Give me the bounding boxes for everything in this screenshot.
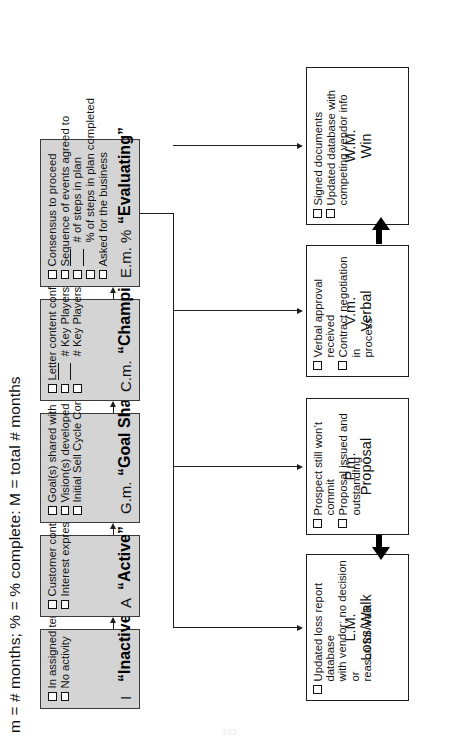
stage-box-active[interactable]: Customer contact made Interest expressed… <box>40 535 140 617</box>
checklist-item[interactable]: Signed documents <box>312 90 324 218</box>
outcome-checklist-proposal: Prospect still won’t commit Proposal iss… <box>312 399 362 528</box>
empty-checkbox-icon[interactable] <box>326 210 335 219</box>
empty-checkbox-icon[interactable] <box>61 693 70 702</box>
fill-in-blank-line <box>83 250 84 267</box>
checklist-item-label: Updated loss report database with vendor… <box>312 555 373 682</box>
fill-in-blank-line <box>70 250 71 267</box>
outcome-checklist-verbal: Verbal approval received Contract negoti… <box>312 246 374 370</box>
arrow-down-icon-proposal <box>297 464 303 470</box>
empty-checkbox-icon[interactable] <box>48 601 57 610</box>
checklist-item[interactable]: Proposal issued and outstanding <box>337 399 361 528</box>
stage-name: “Evaluating” <box>116 127 134 224</box>
checklist-item-label: Prospect still won’t commit <box>312 399 336 516</box>
empty-checkbox-icon[interactable] <box>61 601 70 610</box>
stage-checklist-evaluating: Consensus to proceed Sequence of events … <box>47 98 110 279</box>
connector-branch-bus <box>173 213 174 628</box>
stage-code: A <box>117 598 134 608</box>
outcome-box-loss-walk[interactable]: Updated loss report database with vendor… <box>306 554 409 701</box>
outcome-box-proposal[interactable]: Prospect still won’t commit Proposal iss… <box>306 398 409 535</box>
stage-code: G.m. <box>117 482 134 515</box>
checklist-item[interactable]: Verbal approval received <box>312 246 336 370</box>
checklist-item[interactable]: Updated database with competing vendor i… <box>325 90 349 218</box>
connector-champion-evaluating <box>113 293 114 299</box>
checklist-item[interactable]: Prospect still won’t commit <box>312 399 336 528</box>
checklist-item[interactable]: Updated loss report database with vendor… <box>312 555 373 694</box>
empty-checkbox-icon[interactable] <box>61 507 70 516</box>
stage-code: C.m. <box>117 360 134 392</box>
arrow-right-icon <box>110 287 116 293</box>
checklist-item-label: # of steps in plan <box>72 157 84 242</box>
stage-box-evaluating[interactable]: Consensus to proceed Sequence of events … <box>40 139 140 287</box>
outcome-checklist-loss-walk: Updated loss report database with vendor… <box>312 555 373 694</box>
checklist-item-label: No activity <box>60 636 72 688</box>
arrow-down-icon-verbal <box>297 308 303 314</box>
checklist-item-label: Consensus to proceed <box>47 153 59 266</box>
thick-arrow-right-icon <box>372 217 390 230</box>
page-number: 183 <box>0 727 459 737</box>
arrow-down-icon-loss-walk <box>297 625 303 631</box>
stage-box-goal-shared[interactable]: Goal(s) shared with seller Vision(s) dev… <box>40 413 140 523</box>
empty-checkbox-icon[interactable] <box>86 271 95 280</box>
empty-checkbox-icon[interactable] <box>61 385 70 394</box>
stage-name: “Active” <box>116 526 134 590</box>
empty-checkbox-icon[interactable] <box>48 507 57 516</box>
connector-drop-loss-walk <box>173 627 297 628</box>
stage-box-champion[interactable]: Letter content confirmed # Key Players r… <box>40 299 140 401</box>
empty-checkbox-icon[interactable] <box>73 385 82 394</box>
fill-in-blank-line <box>58 364 59 381</box>
connector-inactive-active <box>113 623 114 629</box>
checklist-item-label: % of steps in plan completed <box>85 98 97 242</box>
connector-evaluating-trunk <box>140 213 174 214</box>
connector-active-goal <box>113 529 114 535</box>
empty-checkbox-icon[interactable] <box>61 271 70 280</box>
checklist-item-label: Asked for the business <box>98 152 110 266</box>
outcome-box-win[interactable]: Signed documents Updated database with c… <box>306 67 409 225</box>
checklist-item-label: Contract negotiation in process <box>337 246 374 358</box>
checklist-item-label: Vision(s) developed <box>60 403 72 502</box>
outcome-name: Win <box>358 68 374 224</box>
empty-checkbox-icon[interactable] <box>338 362 347 371</box>
stage-code: E.m. % <box>117 230 134 278</box>
stage-box-inactive[interactable]: In assigned territory No activity I “Ina… <box>40 629 140 709</box>
empty-checkbox-icon[interactable] <box>313 520 322 529</box>
checklist-item[interactable]: Contract negotiation in process <box>337 246 374 370</box>
outcome-checklist-win: Signed documents Updated database with c… <box>312 90 350 218</box>
arrow-right-icon <box>110 401 116 407</box>
empty-checkbox-icon[interactable] <box>313 362 322 371</box>
connector-drop-win <box>173 145 297 146</box>
empty-checkbox-icon[interactable] <box>48 385 57 394</box>
empty-checkbox-icon[interactable] <box>338 520 347 529</box>
empty-checkbox-icon[interactable] <box>73 271 82 280</box>
connector-goal-champion <box>113 407 114 413</box>
arrow-right-icon <box>110 617 116 623</box>
checklist-item[interactable]: Asked for the business <box>98 98 110 279</box>
checklist-item[interactable]: % of steps in plan completed <box>85 98 97 279</box>
empty-checkbox-icon[interactable] <box>48 693 57 702</box>
checklist-item-label: Verbal approval received <box>312 246 336 358</box>
connector-drop-proposal <box>173 466 297 467</box>
empty-checkbox-icon[interactable] <box>313 210 322 219</box>
empty-checkbox-icon[interactable] <box>313 686 322 695</box>
thick-arrow-left-icon <box>372 547 390 560</box>
stage-name: “Inactive” <box>116 606 134 682</box>
checklist-item-label: Sequence of events agreed to <box>60 116 72 267</box>
checklist-item-label: Updated database with competing vendor i… <box>325 90 349 206</box>
diagram-canvas: m = # months; % = % complete: M = total … <box>0 0 459 741</box>
checklist-item-label: Signed documents <box>312 112 324 206</box>
empty-checkbox-icon[interactable] <box>73 507 82 516</box>
outcome-box-verbal[interactable]: Verbal approval received Contract negoti… <box>306 245 409 377</box>
arrow-down-icon-win <box>297 143 303 149</box>
fill-in-blank-line <box>70 364 71 381</box>
diagram-page: m = # months; % = % complete: M = total … <box>0 0 459 741</box>
checklist-item[interactable]: Consensus to proceed <box>47 98 59 279</box>
checklist-item-label: Proposal issued and outstanding <box>337 413 361 515</box>
thick-connector-verbal-win <box>376 230 382 244</box>
connector-drop-verbal <box>173 310 297 311</box>
stage-code: I <box>117 696 134 700</box>
empty-checkbox-icon[interactable] <box>99 271 108 280</box>
arrow-right-icon <box>110 523 116 529</box>
empty-checkbox-icon[interactable] <box>48 271 57 280</box>
legend-text: m = # months; % = % complete: M = total … <box>6 376 24 733</box>
